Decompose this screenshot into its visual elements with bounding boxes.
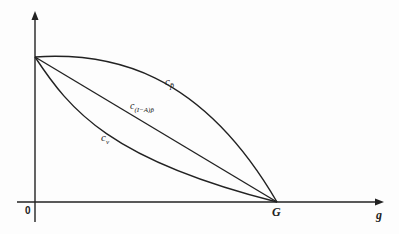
label-c-v: cv: [101, 132, 109, 146]
label-c-p-bar: cp̄: [165, 76, 174, 90]
y-axis-arrow-icon: [32, 11, 39, 20]
diagram-svg: [0, 0, 399, 234]
diagram-canvas: cp̄ c(I−A)p̄ cv 0 G g: [0, 0, 399, 234]
x-axis-arrow-icon: [375, 199, 384, 206]
x-axis-label: g: [376, 209, 382, 221]
label-c-i-minus-a-p-bar: c(I−A)p̄: [130, 101, 154, 114]
origin-label: 0: [25, 206, 31, 216]
x-intercept-label: G: [272, 206, 281, 218]
